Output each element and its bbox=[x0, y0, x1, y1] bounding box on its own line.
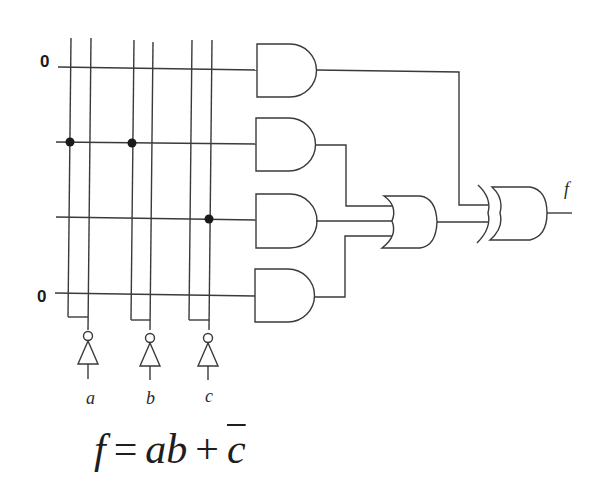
row1-line bbox=[58, 67, 257, 70]
a-true-line bbox=[88, 38, 91, 330]
inverter-b bbox=[140, 334, 160, 381]
product-lines bbox=[55, 67, 257, 296]
boolean-formula: f=ab+c bbox=[94, 428, 246, 470]
and-gate-1 bbox=[257, 44, 317, 97]
or-gate bbox=[382, 196, 437, 248]
and-gate-2 bbox=[256, 118, 316, 171]
row4-line bbox=[55, 293, 255, 296]
and-gate-3 bbox=[256, 194, 317, 248]
c-complement-line bbox=[189, 40, 192, 320]
inverter-c bbox=[198, 334, 218, 381]
row1-constant-label: 0 bbox=[40, 52, 49, 71]
and4-output-wire bbox=[314, 236, 392, 297]
connection-dot-row2-a bbox=[66, 138, 75, 147]
input-label-c: c bbox=[205, 386, 213, 406]
and1-output-wire bbox=[316, 70, 488, 205]
xor-back-curve bbox=[477, 185, 489, 243]
connection-dot-row2-b bbox=[128, 139, 137, 148]
connection-dot-row3-c bbox=[205, 215, 214, 224]
c-true-line bbox=[209, 40, 212, 330]
circuit-diagram: 0 0 f bbox=[0, 0, 598, 501]
and-gate-4 bbox=[255, 269, 315, 322]
inverter-bubble-c bbox=[204, 334, 213, 343]
formula-plus: + bbox=[195, 426, 219, 472]
row4-constant-label: 0 bbox=[37, 287, 46, 306]
inverter-bubble-b bbox=[146, 334, 155, 343]
inverter-bubble-a bbox=[84, 332, 93, 341]
input-label-a: a bbox=[86, 388, 95, 408]
input-lines bbox=[68, 38, 212, 330]
formula-lhs: f bbox=[94, 426, 106, 472]
b-true-line bbox=[150, 42, 153, 330]
row3-line bbox=[56, 217, 257, 220]
and2-output-wire bbox=[315, 145, 392, 206]
formula-term2-complemented: c bbox=[227, 426, 246, 472]
a-complement-line bbox=[68, 38, 71, 317]
inverter-a bbox=[78, 332, 98, 380]
xor-gate bbox=[477, 185, 547, 243]
input-label-b: b bbox=[146, 388, 155, 408]
output-f-label: f bbox=[564, 179, 572, 199]
formula-term1: ab bbox=[145, 426, 187, 472]
row2-line bbox=[56, 142, 257, 144]
b-complement-line bbox=[131, 40, 134, 320]
formula-equals: = bbox=[114, 426, 138, 472]
